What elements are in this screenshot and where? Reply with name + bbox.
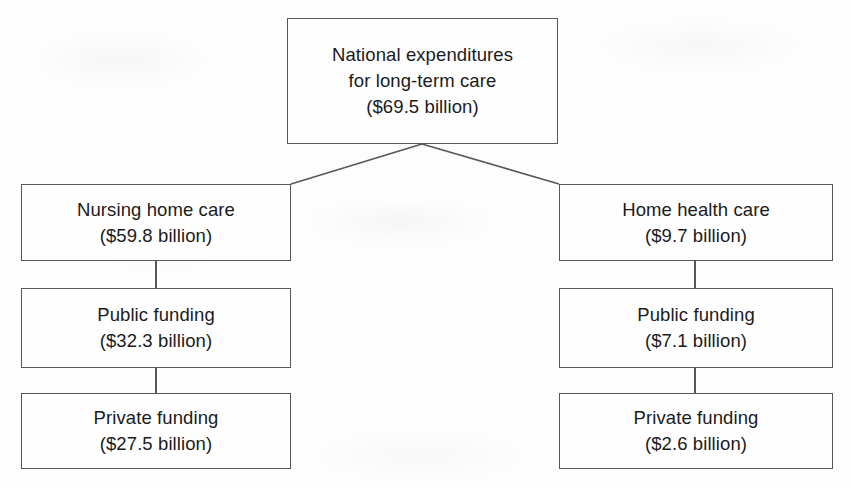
diagram-canvas: National expenditures for long-term care…	[0, 0, 851, 488]
node-home-label: Home health care	[622, 197, 770, 223]
node-home-public-funding: Public funding ($7.1 billion)	[559, 288, 833, 368]
node-nursing-private-label: Private funding	[94, 405, 219, 431]
node-nursing-home-care: Nursing home care ($59.8 billion)	[21, 184, 291, 261]
node-nursing-public-amount: ($32.3 billion)	[100, 328, 213, 354]
node-home-public-amount: ($7.1 billion)	[645, 328, 747, 354]
node-root-line1: National expenditures	[332, 42, 513, 68]
node-national-expenditures: National expenditures for long-term care…	[287, 18, 558, 144]
node-home-private-label: Private funding	[634, 405, 759, 431]
connector-nursing-to-public	[155, 260, 157, 289]
node-nursing-private-funding: Private funding ($27.5 billion)	[21, 393, 291, 469]
connector-home-to-public	[694, 260, 696, 289]
node-nursing-private-amount: ($27.5 billion)	[100, 431, 213, 457]
node-nursing-amount: ($59.8 billion)	[100, 223, 213, 249]
node-root-amount: ($69.5 billion)	[366, 94, 479, 120]
node-home-private-funding: Private funding ($2.6 billion)	[559, 393, 833, 469]
node-home-public-label: Public funding	[637, 302, 755, 328]
connector-home-public-to-private	[694, 367, 696, 394]
node-nursing-public-label: Public funding	[97, 302, 215, 328]
node-home-health-care: Home health care ($9.7 billion)	[559, 184, 833, 261]
node-root-line2: for long-term care	[349, 68, 497, 94]
connector-nursing-public-to-private	[155, 367, 157, 394]
node-nursing-label: Nursing home care	[77, 197, 235, 223]
connector-root-to-home-health	[422, 144, 559, 184]
node-home-private-amount: ($2.6 billion)	[645, 431, 747, 457]
connector-root-to-nursing	[291, 144, 422, 184]
node-home-amount: ($9.7 billion)	[645, 223, 747, 249]
node-nursing-public-funding: Public funding ($32.3 billion)	[21, 288, 291, 368]
